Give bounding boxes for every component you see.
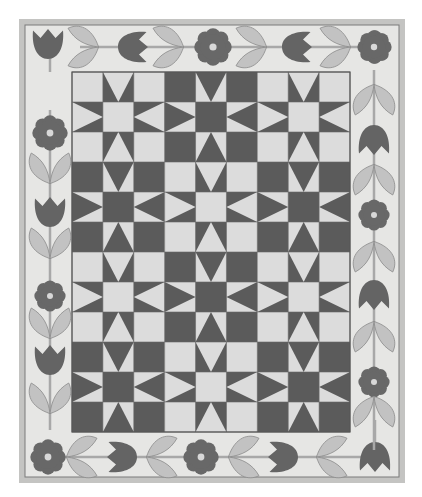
star-block (165, 342, 258, 432)
star-block (257, 162, 350, 252)
quilt-image (0, 0, 422, 497)
star-block (165, 252, 258, 342)
star-block (72, 252, 165, 342)
flower-icon (34, 280, 65, 311)
star-block-grid (72, 72, 350, 432)
flower-icon (32, 115, 67, 150)
star-block (257, 342, 350, 432)
star-block (257, 252, 350, 342)
star-block (165, 72, 258, 162)
flower-icon (183, 439, 218, 474)
star-block (72, 162, 165, 252)
flower-icon (194, 28, 231, 65)
flower-icon (358, 366, 389, 397)
star-block (165, 162, 258, 252)
flower-icon (357, 30, 390, 63)
flower-icon (358, 199, 389, 230)
flower-icon (30, 439, 65, 474)
star-block (257, 72, 350, 162)
star-block (72, 342, 165, 432)
star-block (72, 72, 165, 162)
